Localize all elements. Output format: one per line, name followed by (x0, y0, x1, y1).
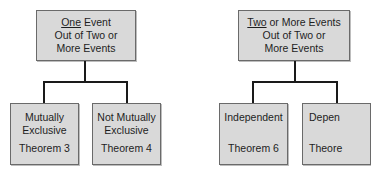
root-line-1-rest: Event (81, 16, 111, 28)
connector-drop-not-mutually-exclusive (126, 81, 128, 103)
theorem-label: Theorem 3 (11, 142, 78, 155)
root-box-one-event: One Event Out of Two or More Events (36, 10, 136, 61)
leaf-box-not-mutually-exclusive: Not Mutually Exclusive Theorem 4 (92, 103, 161, 165)
leaf-title-line-2: Exclusive (11, 124, 78, 137)
theorem-label: Theorem 6 (220, 142, 287, 155)
connector-drop-independent (252, 81, 254, 103)
leaf-title-line-1: Independent (220, 111, 287, 124)
root-line-1: One Event (37, 16, 135, 29)
root-line-3: More Events (239, 42, 349, 55)
leaf-title-line-1: Mutually (11, 111, 78, 124)
leaf-box-independent: Independent Theorem 6 (219, 103, 288, 165)
connector-drop-dependent (336, 81, 338, 103)
theorem-label: Theore (309, 142, 370, 155)
leaf-title-line-1: Depen (309, 111, 370, 124)
root-line-2: Out of Two or (239, 29, 349, 42)
connector-drop-mutually-exclusive (43, 81, 45, 103)
root-underlined-word: Two (247, 16, 266, 28)
root-box-two-or-more-events: Two or More Events Out of Two or More Ev… (238, 10, 350, 61)
root-line-3: More Events (37, 42, 135, 55)
connector-bar-right (252, 81, 338, 83)
root-line-2: Out of Two or (37, 29, 135, 42)
connector-bar-left (43, 81, 128, 83)
connector-stem-right (294, 61, 296, 83)
root-line-1: Two or More Events (239, 16, 349, 29)
leaf-title-line-2: Exclusive (93, 124, 160, 137)
leaf-box-mutually-exclusive: Mutually Exclusive Theorem 3 (10, 103, 79, 165)
connector-stem-left (84, 61, 86, 83)
leaf-title-line-1: Not Mutually (93, 111, 160, 124)
leaf-box-dependent-clipped: Depen Theore (302, 103, 371, 165)
theorem-label: Theorem 4 (93, 142, 160, 155)
root-line-1-rest: or More Events (267, 16, 341, 28)
root-underlined-word: One (61, 16, 81, 28)
